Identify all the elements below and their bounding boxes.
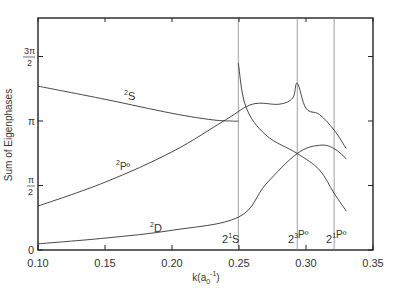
threshold-label-2-1S: 21S [222, 232, 239, 245]
series-label-2S: 2S [124, 89, 135, 102]
series-curve [238, 63, 346, 211]
x-tick-label: 0.30 [295, 257, 316, 269]
axis-ticks [38, 18, 373, 250]
chart: 0.100.150.200.250.300.35 0 π 2 π 3π 2 Su… [0, 0, 393, 294]
plot-frame [38, 18, 373, 250]
y-tick-label-3pi-half-num: 3π [24, 46, 35, 56]
series-label-2D: 2D [150, 221, 162, 234]
y-tick-label-3pi-half-den: 2 [27, 58, 32, 68]
x-tick-labels: 0.100.150.200.250.300.35 [27, 257, 383, 269]
threshold-lines [238, 18, 334, 250]
series-curve [38, 83, 346, 206]
series-curve [38, 86, 238, 121]
series-label-2Po: 2Pº [116, 159, 131, 172]
y-tick-labels: 0 π 2 π 3π 2 [23, 46, 35, 256]
y-tick-label-0: 0 [28, 244, 34, 256]
x-tick-label: 0.10 [27, 257, 48, 269]
x-tick-label: 0.35 [362, 257, 383, 269]
x-tick-label: 0.15 [94, 257, 115, 269]
y-tick-label-pi-half-den: 2 [28, 187, 33, 197]
threshold-label-2-1Po: 21Pº [326, 229, 347, 245]
x-axis-title: k(a0-1) [192, 270, 219, 285]
y-tick-label-pi-half-num: π [28, 175, 34, 185]
curves [38, 63, 346, 244]
y-axis-title: Sum of Eigenphases [3, 89, 14, 181]
threshold-label-2-3Po: 23Pº [288, 229, 309, 245]
y-tick-label-pi: π [28, 116, 35, 127]
x-tick-label: 0.20 [161, 257, 182, 269]
x-tick-label: 0.25 [228, 257, 249, 269]
